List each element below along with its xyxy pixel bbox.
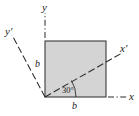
angle-label: 30° <box>62 86 74 95</box>
x-prime-axis-label: x′ <box>120 43 127 54</box>
x-axis-label: x <box>129 91 134 102</box>
y-prime-axis-line <box>12 35 45 97</box>
mechanics-figure: y x y′ x′ b b 30° <box>0 0 139 116</box>
y-axis-label: y <box>42 2 47 13</box>
side-length-label-left: b <box>35 59 40 69</box>
y-prime-axis-label: y′ <box>5 26 12 37</box>
side-length-label-bottom: b <box>72 101 77 111</box>
figure-canvas <box>0 0 139 116</box>
square-plate <box>45 41 106 97</box>
